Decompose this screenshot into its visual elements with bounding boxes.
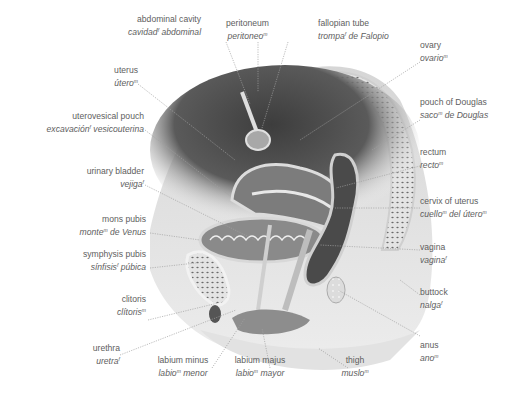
label-abdominal-cavity: abdominal cavity cavidadf abdominal	[128, 14, 201, 37]
anatomy-diagram: abdominal cavity cavidadf abdominal peri…	[0, 0, 508, 394]
label-labium-minus: labium minus labiom menor	[150, 355, 216, 378]
label-anus: anus anom	[420, 340, 439, 363]
ovary-shape	[246, 130, 270, 150]
label-cervix-of-uterus: cervix of uterus cuellom del úterom	[420, 196, 487, 219]
label-uterus: uterus úterom	[96, 65, 138, 88]
label-symphysis-pubis: symphysis pubis sínfisisf púbica	[50, 249, 146, 272]
label-buttock: buttock nalgaf	[420, 287, 448, 310]
label-pouch-of-douglas: pouch of Douglas sacom de Douglas	[420, 97, 488, 120]
label-vagina: vagina vaginaf	[420, 242, 447, 265]
label-urinary-bladder: urinary bladder vejigaf	[60, 166, 144, 189]
label-mons-pubis: mons pubis montem de Venus	[50, 214, 146, 237]
label-labium-majus: labium majus labiom mayor	[227, 355, 293, 378]
label-peritoneum: peritoneum peritoneom	[226, 18, 269, 41]
label-urethra: urethra uretraf	[70, 343, 120, 366]
label-fallopian-tube: fallopian tube trompaf de Falopio	[318, 18, 389, 41]
label-uterovesical-pouch: uterovesical pouch excavaciónf vesicoute…	[20, 111, 144, 134]
label-thigh: thigh muslom	[335, 355, 375, 378]
label-ovary: ovary ovariom	[420, 40, 448, 63]
anal-sphincter	[327, 277, 345, 303]
clitoris-shape	[209, 305, 221, 323]
label-clitoris: clitoris clítorism	[80, 294, 146, 317]
label-rectum: rectum rectom	[420, 147, 446, 170]
